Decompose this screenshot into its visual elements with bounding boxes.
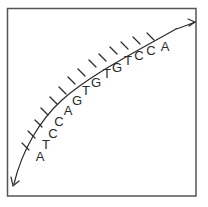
base-tick — [41, 108, 48, 115]
strand-backbone-tail — [176, 22, 195, 29]
dna-strand-diagram: ATCCAGTGTGTCCA — [0, 0, 208, 207]
base-label: C — [54, 114, 63, 129]
base-tick — [99, 54, 106, 61]
base-tick — [110, 47, 117, 54]
base-label: G — [91, 75, 101, 90]
base-label: A — [161, 39, 170, 54]
base-tick — [121, 42, 128, 49]
base-label: C — [146, 43, 155, 58]
base-tick — [78, 69, 85, 76]
base-tick — [68, 77, 75, 84]
base-label: C — [134, 48, 143, 63]
base-tick — [133, 37, 140, 44]
frame-border — [8, 9, 197, 197]
base-label: T — [124, 53, 132, 68]
base-tick — [59, 87, 66, 94]
base-tick — [147, 33, 154, 40]
base-label: T — [82, 83, 90, 98]
base-tick — [89, 60, 96, 67]
base-label: G — [112, 60, 122, 75]
base-tick — [50, 97, 57, 104]
base-label: G — [72, 93, 82, 108]
base-label: T — [103, 66, 111, 81]
